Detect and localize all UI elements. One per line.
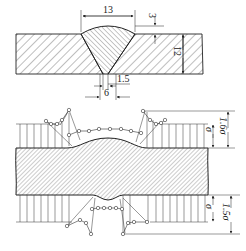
label-13: 13 xyxy=(103,4,113,15)
label-6: 6 xyxy=(104,87,109,98)
label-1.6sigma: 1.6σ xyxy=(218,117,229,136)
lower-plate-section xyxy=(16,138,209,200)
label-12: 12 xyxy=(172,46,183,56)
weld-stress-diagram: 13 3 12 1.5 6 xyxy=(0,0,246,251)
label-1.5: 1.5 xyxy=(117,73,130,84)
dim-bottom-stress: σ 1.5σ xyxy=(204,196,232,233)
dim-root: 1.5 6 xyxy=(85,73,130,100)
label-sigma-top: σ xyxy=(204,127,215,133)
dim-top-stress: σ 1.6σ xyxy=(204,112,229,147)
label-sigma-bottom: σ xyxy=(204,204,215,210)
label-1.5sigma: 1.5σ xyxy=(221,203,232,222)
top-stress-curve xyxy=(44,108,166,136)
bottom-stress-lines xyxy=(16,195,240,234)
label-3: 3 xyxy=(147,13,158,18)
diagram-canvas: 13 3 12 1.5 6 xyxy=(0,0,246,251)
welded-plate xyxy=(16,138,209,200)
bottom-stress-curve xyxy=(65,206,148,235)
